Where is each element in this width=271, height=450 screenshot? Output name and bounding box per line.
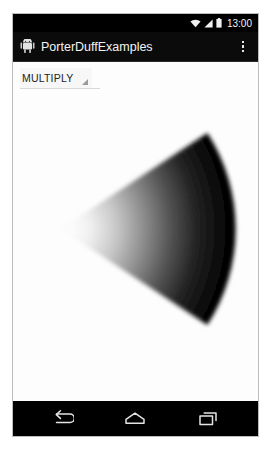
battery-icon: [216, 18, 222, 28]
cellular-signal-icon: [204, 19, 213, 28]
device-frame: 13:00 PorterDuffExamples: [12, 13, 259, 437]
spinner-underline: [20, 88, 100, 89]
spinner-selected-value: MULTIPLY: [22, 72, 73, 84]
nav-home-button[interactable]: [115, 404, 155, 434]
wifi-icon: [190, 19, 201, 28]
porterduff-mode-spinner[interactable]: MULTIPLY: [20, 68, 92, 88]
status-bar: 13:00: [13, 14, 258, 32]
screenshot-root: 13:00 PorterDuffExamples: [0, 0, 271, 450]
status-bar-clock: 13:00: [227, 18, 252, 29]
overflow-menu-icon[interactable]: [234, 34, 252, 60]
app-title: PorterDuffExamples: [41, 40, 234, 54]
porterduff-result-graphic: [13, 62, 258, 403]
dropdown-triangle-icon: [82, 79, 88, 85]
android-robot-icon: [20, 39, 35, 54]
navigation-bar: [13, 401, 258, 436]
content-area: MULTIPLY: [13, 62, 258, 403]
nav-back-button[interactable]: [43, 404, 83, 434]
overflow-dot: [242, 45, 245, 48]
overflow-dot: [242, 41, 245, 44]
action-bar: PorterDuffExamples: [13, 32, 258, 62]
nav-recents-button[interactable]: [188, 404, 228, 434]
overflow-dot: [242, 50, 245, 53]
